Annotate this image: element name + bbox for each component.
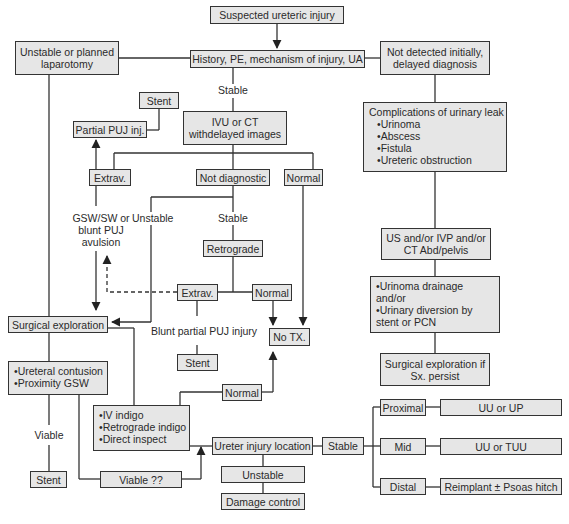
node-normal-2: Normal [252, 284, 292, 301]
node-surgical-exploration: Surgical exploration [8, 316, 108, 333]
label-viable: Viable [33, 429, 65, 441]
node-extrav-2: Extrav. [177, 284, 218, 301]
node-mid: Mid [380, 438, 426, 455]
urinoma-item: Urinary diversion by stent or PCN [376, 304, 494, 328]
label-stable-1: Stable [218, 84, 248, 96]
indigo-item: IV indigo [99, 409, 186, 421]
node-us-ivp: US and/or IVP and/or CT Abd/pelvis [381, 228, 491, 260]
node-complications: Complications of urinary leak Urinoma Ab… [363, 102, 507, 172]
node-unstable-laparotomy: Unstable or planned laparotomy [15, 41, 119, 75]
complication-item: Urinoma [377, 118, 472, 130]
node-stable-3: Stable [322, 437, 364, 455]
node-contusion: Ureteral contusion Proximity GSW [8, 361, 108, 395]
node-reimplant: Reimplant ± Psoas hitch [440, 478, 562, 495]
node-damage-control: Damage control [221, 493, 305, 510]
urinoma-item: Urinoma drainage and/or [376, 280, 486, 304]
node-suspected-injury: Suspected ureteric injury [210, 6, 344, 24]
contusion-item: Proximity GSW [14, 377, 103, 389]
label-stable-2: Stable [218, 212, 248, 224]
node-retrograde: Retrograde [203, 240, 263, 257]
node-proximal: Proximal [380, 399, 426, 416]
complication-item: Fistula [377, 142, 472, 154]
node-uu-up: UU or UP [440, 399, 562, 416]
node-extrav-1: Extrav. [89, 169, 131, 186]
node-history: History, PE, mechanism of injury, UA [190, 50, 365, 68]
node-stent-mid: Stent [177, 354, 218, 371]
node-indigo: IV indigo Retrograde indigo Direct inspe… [93, 405, 190, 451]
node-unstable: Unstable [221, 466, 305, 483]
node-uu-tuu: UU or TUU [440, 438, 562, 455]
node-no-tx: No TX. [269, 328, 310, 346]
label-gsw: GSW/SW or blunt PUJ avulsion [70, 212, 132, 248]
node-viable-question: Viable ?? [100, 471, 182, 488]
node-ivu-ct: IVU or CT withdelayed images [183, 111, 287, 145]
contusion-item: Ureteral contusion [14, 365, 103, 377]
node-normal-3: Normal [222, 384, 262, 401]
complications-title: Complications of urinary leak [369, 106, 504, 118]
node-ureter-location: Ureter injury location [212, 437, 313, 455]
node-stent-top: Stent [139, 92, 179, 109]
node-not-diagnostic: Not diagnostic [196, 169, 270, 186]
label-unstable: Unstable [132, 212, 172, 224]
node-stent-bottom: Stent [30, 471, 67, 488]
node-distal: Distal [380, 478, 426, 495]
indigo-item: Retrograde indigo [99, 421, 186, 433]
indigo-item: Direct inspect [99, 433, 186, 445]
label-blunt-partial: Blunt partial PUJ injury [150, 325, 258, 337]
node-surgical-if-persist: Surgical exploration if Sx. persist [380, 353, 490, 386]
complication-item: Ureteric obstruction [377, 154, 472, 166]
node-normal-1: Normal [284, 169, 323, 186]
node-not-detected: Not detected initially, delayed diagnosi… [380, 41, 490, 75]
node-urinoma-drainage: Urinoma drainage and/or Urinary diversio… [370, 276, 500, 333]
node-partial-puj: Partial PUJ inj. [73, 121, 147, 138]
complication-item: Abscess [377, 130, 472, 142]
